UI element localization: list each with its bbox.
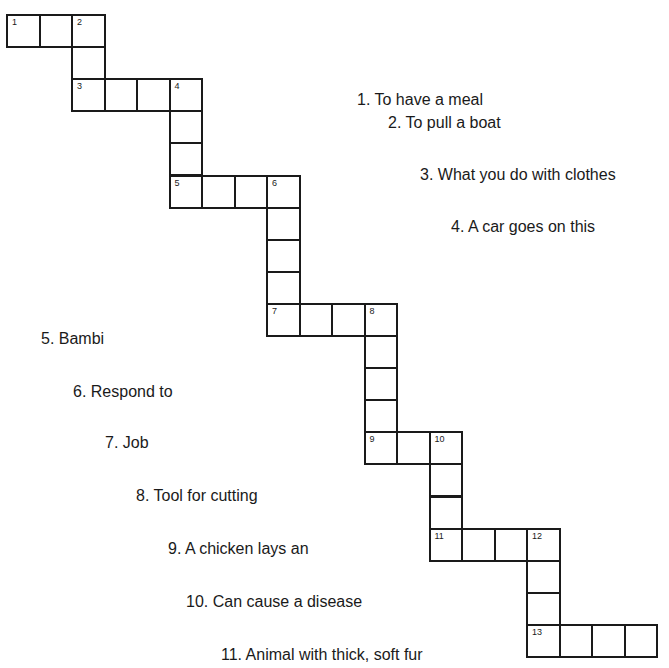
cell-number: 8 [370,306,375,316]
crossword-cell[interactable]: 4 [169,78,204,112]
crossword-cell[interactable]: 8 [364,303,399,337]
crossword-cell[interactable]: 12 [526,528,561,562]
crossword-cell[interactable] [429,496,464,530]
crossword-cell[interactable] [331,303,366,337]
crossword-cell[interactable] [39,14,74,48]
crossword-cell[interactable] [136,78,171,112]
cell-number: 12 [532,531,542,541]
crossword-cell[interactable] [396,431,431,465]
crossword-cell[interactable] [299,303,334,337]
cell-number: 10 [435,434,445,444]
crossword-cell[interactable] [234,175,269,209]
cell-number: 7 [272,306,277,316]
cell-number: 9 [370,434,375,444]
cell-number: 2 [77,17,82,27]
clue-item: 9. A chicken lays an [168,539,309,559]
clue-item: 7. Job [105,433,149,453]
crossword-cell[interactable]: 7 [266,303,301,337]
crossword-cell[interactable]: 13 [526,624,561,658]
crossword-cell[interactable] [104,78,139,112]
clue-item: 4. A car goes on this [451,217,595,237]
crossword-cell[interactable]: 6 [266,175,301,209]
crossword-cell[interactable]: 9 [364,431,399,465]
crossword-cell[interactable] [201,175,236,209]
crossword-cell[interactable]: 2 [71,14,106,48]
crossword-cell[interactable]: 10 [429,431,464,465]
crossword-cell[interactable] [461,528,496,562]
crossword-cell[interactable] [429,463,464,497]
clue-item: 5. Bambi [41,329,104,349]
cell-number: 6 [272,178,277,188]
crossword-cell[interactable] [266,207,301,241]
clue-item: 6. Respond to [73,382,173,402]
crossword-cell[interactable] [266,271,301,305]
clue-item: 1. To have a meal [357,90,483,110]
crossword-cell[interactable] [624,624,659,658]
cell-number: 5 [175,178,180,188]
clue-item: 10. Can cause a disease [186,592,362,612]
crossword-cell[interactable]: 5 [169,175,204,209]
crossword-cell[interactable]: 3 [71,78,106,112]
clue-item: 11. Animal with thick, soft fur [221,645,423,665]
cell-number: 3 [77,81,82,91]
crossword-cell[interactable] [364,399,399,433]
clue-item: 2. To pull a boat [388,113,501,133]
crossword-cell[interactable]: 11 [429,528,464,562]
cell-number: 13 [532,627,542,637]
crossword-cell[interactable] [494,528,529,562]
crossword-cell[interactable]: 1 [6,14,41,48]
crossword-cell[interactable] [526,592,561,626]
crossword-cell[interactable] [71,46,106,80]
crossword-cell[interactable] [559,624,594,658]
crossword-cell[interactable] [364,367,399,401]
cell-number: 4 [175,81,180,91]
crossword-cell[interactable] [591,624,626,658]
cell-number: 11 [435,531,444,541]
crossword-cell[interactable] [526,560,561,594]
cell-number: 1 [12,17,17,27]
clue-item: 3. What you do with clothes [420,165,616,185]
crossword-cell[interactable] [266,239,301,273]
crossword-cell[interactable] [169,142,204,176]
crossword-cell[interactable] [169,110,204,144]
clue-item: 8. Tool for cutting [136,486,258,506]
crossword-cell[interactable] [364,335,399,369]
